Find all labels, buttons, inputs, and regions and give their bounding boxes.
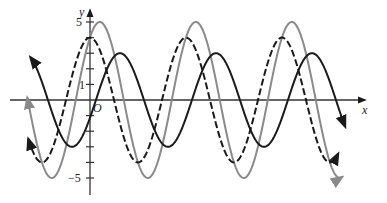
origin-label: O [93, 102, 102, 114]
plot-area [0, 0, 387, 203]
y-tick-label-1: 1 [79, 79, 85, 91]
x-axis-label: x [362, 104, 367, 116]
chart: y x O 5 1 −5 [0, 0, 387, 203]
y-tick-label-neg5: −5 [68, 172, 81, 184]
y-tick-label-5: 5 [76, 16, 82, 28]
